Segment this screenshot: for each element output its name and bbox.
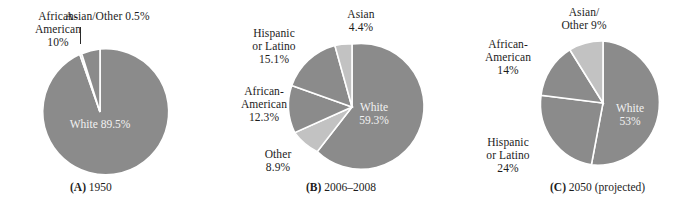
pie-c-caption-prefix: (C)	[550, 181, 566, 193]
pie-c-caption-text: 2050 (projected)	[566, 181, 645, 193]
pie-a-label-asian-other: Asian/Other 0.5%	[65, 10, 215, 23]
pie-c-label-hispanic-or-latino: Hispanic or Latino 24%	[470, 136, 546, 174]
pie-c-label-asian-other: Asian/ Other 9%	[548, 6, 620, 32]
pie-a-caption: (A) 1950	[70, 181, 112, 194]
pie-a-caption-text: 1950	[86, 181, 112, 193]
pie-chart-panel-a: African- American 10% Asian/Other 0.5% W…	[0, 0, 228, 203]
pie-chart-panel-c: Asian/ Other 9% African- American 14% Hi…	[460, 0, 694, 203]
pie-a-leader-asian-other	[80, 27, 81, 44]
pie-c-caption: (C) 2050 (projected)	[550, 181, 645, 194]
pie-b-label-hispanic-or-latino: Hispanic or Latino 15.1%	[238, 27, 310, 65]
pie-a-label-white: White 89.5%	[50, 118, 150, 131]
pie-a-caption-prefix: (A)	[70, 181, 86, 193]
pie-b-caption-prefix: (B)	[306, 181, 321, 193]
pie-c-label-african-american: African- American 14%	[470, 38, 546, 76]
pie-b-label-white: White 59.3%	[343, 101, 405, 127]
pie-b-caption: (B) 2006–2008	[306, 181, 376, 194]
pie-c-slice-hispanic-or-latino	[540, 95, 603, 165]
pie-b-label-other: Other 8.9%	[250, 148, 306, 174]
pie-chart-figure: African- American 10% Asian/Other 0.5% W…	[0, 0, 694, 203]
pie-c-label-white: White 53%	[600, 102, 660, 128]
pie-b-label-african-american: African- American 12.3%	[226, 85, 302, 123]
pie-b-caption-text: 2006–2008	[321, 181, 376, 193]
pie-b-label-asian: Asian 4.4%	[332, 8, 390, 34]
pie-a-slice-white	[43, 49, 169, 175]
pie-chart-panel-b: Asian 4.4% Hispanic or Latino 15.1% Afri…	[228, 0, 460, 203]
